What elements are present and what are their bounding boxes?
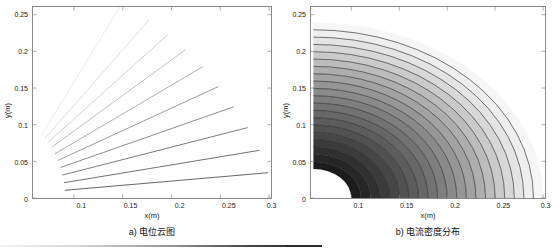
xtick-b-4: 0.3 [541,202,551,209]
xtick-a-3: 0.25 [222,202,236,209]
ytick-a-4: 0.2 [7,47,28,54]
xtick-a-2: 0.2 [175,202,185,209]
xtick-b-2: 0.2 [450,202,460,209]
ytick-a-3: 0.15 [5,84,28,91]
xaxis-title-b: x(m) [421,212,436,220]
potential-line-4 [61,107,234,168]
caption-a: a) 电位云图 [129,228,176,237]
potential-lines-plot [33,7,271,198]
potential-line-6 [55,67,203,154]
ytick-a-0: 0 [10,196,28,203]
potential-line-10 [41,7,120,136]
ytick-b-3: 0.15 [283,84,306,91]
xtick-a-4: 0.3 [267,202,277,209]
potential-line-2 [64,150,259,182]
scan-artifact-bar-right [286,245,322,247]
potential-line-8 [48,35,167,142]
ytick-a-2: 0.1 [7,121,28,128]
ytick-b-2: 0.1 [285,121,306,128]
scan-artifact-bar [0,245,286,247]
plot-area-b [310,6,546,199]
caption-b: b) 电流密度分布 [396,228,461,237]
ytick-b-5: 0.25 [283,10,306,17]
panel-current-density: 0.1 0.15 0.2 0.25 0.3 0 0.05 0.1 0.15 0.… [278,0,557,249]
potential-line-5 [58,87,218,161]
xtick-b-3: 0.25 [497,202,511,209]
potential-line-1 [65,173,268,191]
ytick-b-1: 0.05 [283,159,306,166]
ytick-a-1: 0.05 [5,159,28,166]
plot-area-a [32,6,272,199]
ytick-b-4: 0.2 [285,47,306,54]
potential-line-9 [45,20,149,139]
xtick-b-1: 0.15 [400,202,414,209]
xtick-b-0: 0.1 [354,202,364,209]
ytick-a-5: 0.25 [5,10,28,17]
yaxis-title-b: y(m) [282,103,290,118]
xtick-a-1: 0.15 [124,202,138,209]
panel-potential-contour: 0.1 0.15 0.2 0.25 0.3 0 0.05 0.1 0.15 0.… [0,0,282,249]
yaxis-title-a: y(m) [4,103,12,118]
ytick-b-0: 0 [288,196,306,203]
xtick-a-0: 0.1 [76,202,86,209]
xaxis-title-a: x(m) [145,212,160,220]
figure-container: 0.1 0.15 0.2 0.25 0.3 0 0.05 0.1 0.15 0.… [0,0,557,249]
current-density-contour-plot [311,7,545,198]
